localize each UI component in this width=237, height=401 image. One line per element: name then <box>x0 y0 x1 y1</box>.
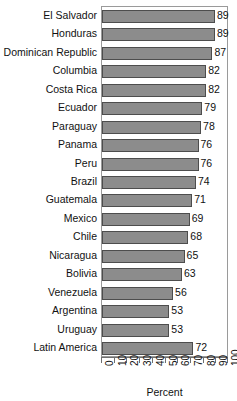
bar <box>102 176 196 189</box>
bar <box>102 102 202 115</box>
bar-value-label: 63 <box>184 268 196 279</box>
bar-value-label: 53 <box>171 305 183 316</box>
bar-chart: El SalvadorHondurasDominican RepublicCol… <box>0 0 237 401</box>
bar-value-label: 79 <box>204 102 216 113</box>
bar-value-label: 53 <box>171 324 183 335</box>
bar-value-label: 76 <box>201 158 213 169</box>
category-axis: El SalvadorHondurasDominican RepublicCol… <box>0 6 97 357</box>
bar <box>102 194 192 207</box>
bar <box>102 84 206 97</box>
category-label: Costa Rica <box>0 84 97 95</box>
category-label: Panama <box>0 139 97 150</box>
axis-title-percent: Percent <box>101 386 228 398</box>
bar <box>102 324 169 337</box>
bar-value-label: 78 <box>203 121 215 132</box>
bar <box>102 287 173 300</box>
bar-value-label: 72 <box>195 342 207 353</box>
category-label: El Salvador <box>0 10 97 21</box>
bar-value-label: 69 <box>192 213 204 224</box>
category-label: Argentina <box>0 305 97 316</box>
axis-tick-label: 10 <box>118 355 128 366</box>
axis-tick-label: 70 <box>194 355 204 366</box>
bar <box>102 65 206 78</box>
bar-value-label: 56 <box>175 287 187 298</box>
bar <box>102 268 182 281</box>
bar <box>102 28 215 41</box>
category-label: Columbia <box>0 65 97 76</box>
bar <box>102 139 199 152</box>
bar <box>102 250 185 263</box>
axis-tick-label: 30 <box>143 355 153 366</box>
axis-tick-label: 0 <box>105 360 115 366</box>
axis-tick-label: 100 <box>231 349 237 366</box>
bar-value-label: 89 <box>217 28 229 39</box>
category-label: Venezuela <box>0 287 97 298</box>
category-label: Nicaragua <box>0 250 97 261</box>
bar <box>102 47 212 60</box>
bar <box>102 158 199 171</box>
category-label: Paraguay <box>0 121 97 132</box>
category-label: Guatemala <box>0 194 97 205</box>
category-label: Honduras <box>0 28 97 39</box>
bar <box>102 10 215 23</box>
axis-tick-label: 90 <box>219 355 229 366</box>
bar-value-label: 71 <box>194 194 206 205</box>
category-label: Mexico <box>0 213 97 224</box>
bar <box>102 342 193 355</box>
category-label: Peru <box>0 158 97 169</box>
category-label: Ecuador <box>0 102 97 113</box>
bar-value-label: 68 <box>190 231 202 242</box>
bar-value-label: 76 <box>201 139 213 150</box>
category-label: Uruguay <box>0 324 97 335</box>
category-label: Dominican Republic <box>0 47 97 58</box>
axis-tick-label: 50 <box>169 355 179 366</box>
category-label: Chile <box>0 231 97 242</box>
bar-value-label: 65 <box>187 250 199 261</box>
bar-value-label: 74 <box>198 176 210 187</box>
axis-tick-label: 20 <box>130 355 140 366</box>
category-label: Brazil <box>0 176 97 187</box>
category-label: Bolivia <box>0 268 97 279</box>
axis-tick-label: 40 <box>156 355 166 366</box>
category-label: Latin America <box>0 342 97 353</box>
bar <box>102 213 190 226</box>
bar-value-label: 82 <box>208 65 220 76</box>
bar <box>102 231 188 244</box>
axis-tick <box>101 358 102 363</box>
axis-tick-label: 80 <box>207 355 217 366</box>
bar-value-label: 82 <box>208 84 220 95</box>
axis-tick-label: 60 <box>181 355 191 366</box>
bar <box>102 305 169 318</box>
bar-value-label: 87 <box>214 47 226 58</box>
bar <box>102 121 201 134</box>
bar-value-label: 89 <box>217 10 229 21</box>
